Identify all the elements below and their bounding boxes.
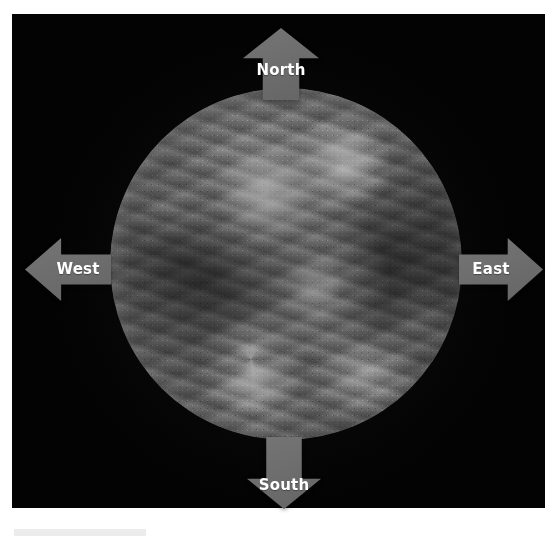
globe-rim-highlight xyxy=(110,88,462,440)
figure-root: North West East South xyxy=(0,0,556,540)
arrow-south-shape xyxy=(247,437,321,509)
earth-globe-disc xyxy=(110,88,462,440)
earth-globe xyxy=(110,88,462,440)
arrow-north-label: North xyxy=(256,63,305,78)
arrow-south-label: South xyxy=(259,478,310,493)
arrow-down-icon[interactable]: South xyxy=(247,437,321,509)
caption-strip xyxy=(14,529,146,536)
arrow-right-icon[interactable]: East xyxy=(459,238,543,301)
arrow-left-icon[interactable]: West xyxy=(25,238,111,301)
arrow-east-label: East xyxy=(472,262,509,277)
arrow-west-label: West xyxy=(56,262,99,277)
arrow-up-icon[interactable]: North xyxy=(243,28,319,100)
